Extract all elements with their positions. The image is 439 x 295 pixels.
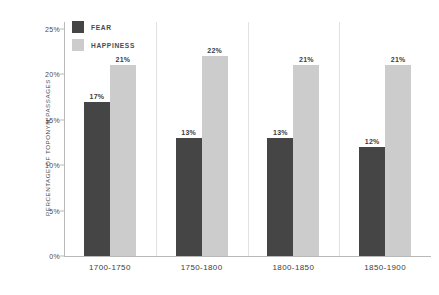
legend-swatch-fear [72,21,84,33]
bar-value-label: 21% [299,56,314,63]
bar-value-label: 21% [391,56,406,63]
bar-fear-1750-1800 [176,138,202,256]
bar-value-label: 21% [116,56,131,63]
legend-label-happiness: HAPPINESS [91,42,135,49]
bar-value-label: 13% [273,129,288,136]
y-axis-tick-label: 20% [45,71,60,78]
x-axis-tick-label: 1800-1850 [272,263,314,272]
bar-fear-1850-1900 [359,147,385,256]
y-axis-tick-label: 0% [49,253,60,260]
x-axis-tick-label: 1700-1750 [89,263,131,272]
legend-label-fear: FEAR [91,24,112,31]
y-axis-tick-label: 10% [45,162,60,169]
bar-chart: PERCENTAGE OF TOPONYM PASSAGES 0%5%10%15… [0,0,439,295]
plot-area: 17%21%13%22%13%21%12%21% [64,29,430,256]
x-axis-line [64,256,431,257]
y-axis-tick-label: 15% [45,116,60,123]
y-axis-title: PERCENTAGE OF TOPONYM PASSAGES [30,0,64,295]
bar-happiness-1750-1800 [202,56,228,256]
bar-happiness-1800-1850 [293,65,319,256]
bar-fear-1700-1750 [84,102,110,256]
bar-value-label: 12% [365,138,380,145]
x-axis-tick-label: 1850-1900 [364,263,406,272]
bar-value-label: 22% [207,47,222,54]
bar-happiness-1850-1900 [385,65,411,256]
bar-value-label: 13% [181,129,196,136]
legend: FEAR HAPPINESS [72,19,135,55]
y-axis-tick-label: 25% [45,26,60,33]
x-axis-tick-label: 1750-1800 [181,263,223,272]
bar-happiness-1700-1750 [110,65,136,256]
legend-swatch-happiness [72,39,84,51]
bar-value-label: 17% [90,93,105,100]
legend-item-fear: FEAR [72,19,135,35]
bar-fear-1800-1850 [267,138,293,256]
legend-item-happiness: HAPPINESS [72,37,135,53]
y-axis-tick-label: 5% [49,207,60,214]
